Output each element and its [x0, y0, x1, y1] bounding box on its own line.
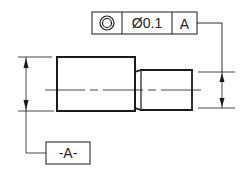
technical-drawing: Ø0.1 A -A-: [0, 0, 251, 180]
right-dimension: [198, 72, 235, 108]
arrowheads: [24, 58, 225, 110]
concentricity-icon: [100, 16, 114, 30]
large-diameter-section: [57, 57, 135, 111]
datum-label: -A-: [59, 145, 78, 161]
left-dimension: [18, 57, 54, 153]
datum-reference: A: [180, 16, 190, 32]
tolerance-value: Ø0.1: [132, 15, 163, 31]
